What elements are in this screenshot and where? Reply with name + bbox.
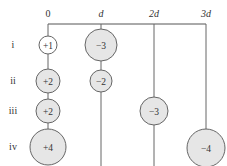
charge-i-d: −3 xyxy=(85,29,117,61)
charge-label: +1 xyxy=(43,41,53,51)
charge-ii-d: −2 xyxy=(90,70,112,92)
column-label-0: 0 xyxy=(46,8,51,19)
charge-label: −3 xyxy=(149,107,159,117)
charge-label: −2 xyxy=(96,77,106,87)
column-label-2d: 2d xyxy=(149,8,160,19)
charge-label: +2 xyxy=(43,107,53,117)
row-label-iv: iv xyxy=(9,141,17,152)
charge-i-0: +1 xyxy=(39,36,57,54)
column-label-d: d xyxy=(99,8,105,19)
charge-iv-3d: −4 xyxy=(187,129,225,166)
charge-arrangement-diagram: 0 d 2d 3d i ii iii iv +1 −3 +2 −2 +2 −3 … xyxy=(0,0,227,166)
charge-iii-2d: −3 xyxy=(140,97,168,125)
charge-label: −4 xyxy=(201,144,211,154)
charge-iii-0: +2 xyxy=(36,99,60,123)
charge-iv-0: +4 xyxy=(30,129,66,165)
charge-label: −3 xyxy=(96,41,106,51)
column-label-3d: 3d xyxy=(200,8,212,19)
charge-ii-0: +2 xyxy=(36,69,60,93)
row-label-i: i xyxy=(12,39,15,50)
row-label-iii: iii xyxy=(9,105,18,116)
charge-label: +4 xyxy=(43,143,53,153)
row-label-ii: ii xyxy=(10,75,16,86)
charge-label: +2 xyxy=(43,77,53,87)
